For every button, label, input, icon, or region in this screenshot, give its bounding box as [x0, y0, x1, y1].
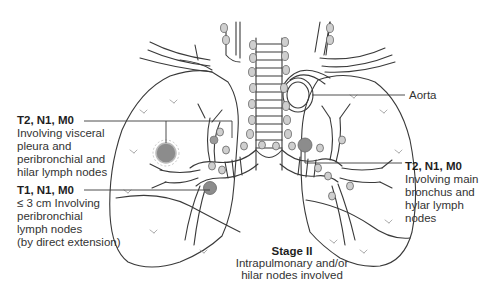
label-line: (by direct extension)	[17, 236, 121, 249]
label-line: pleura and	[17, 140, 107, 153]
leader-t2-right	[305, 152, 402, 163]
label-line: bronchus and	[405, 186, 479, 199]
label-title: T2, N1, M0	[405, 160, 479, 173]
tumor-t1	[204, 182, 217, 195]
label-t2-n1-m0-right: T2, N1, M0 Involving main bronchus and h…	[405, 160, 479, 225]
caption-title: Stage II	[232, 245, 352, 257]
tumor-visceral-pleura	[156, 143, 176, 163]
label-title: T2, N1, M0	[17, 114, 107, 127]
label-line: hilar lymph nodes	[17, 166, 107, 179]
label-line: nodes	[405, 212, 479, 225]
neck-vessels	[140, 22, 395, 72]
label-aorta: Aorta	[409, 89, 437, 102]
lymph-nodes	[209, 24, 354, 201]
right-lung-fissure	[306, 200, 410, 238]
tumor-main-bronchus	[298, 138, 312, 152]
left-lung-fissure	[116, 195, 240, 232]
label-line: ≤ 3 cm Involving	[17, 197, 121, 210]
label-line: Aorta	[409, 89, 437, 102]
label-t1-n1-m0: T1, N1, M0 ≤ 3 cm Involving peribronchia…	[17, 184, 121, 249]
label-line: peribronchial and	[17, 153, 107, 166]
label-title: T1, N1, M0	[17, 184, 121, 197]
stage-caption: Stage II Intrapulmonary and/or hilar nod…	[232, 245, 352, 281]
caption-line: Intrapulmonary and/or	[232, 257, 352, 269]
label-line: Involving main	[405, 173, 479, 186]
caption-line: hilar nodes involved	[232, 269, 352, 281]
label-line: Involving visceral	[17, 127, 107, 140]
bronchi	[150, 104, 392, 245]
label-line: hylar lymph	[405, 199, 479, 212]
label-line: lymph nodes	[17, 223, 121, 236]
label-line: peribronchial	[17, 210, 121, 223]
trachea	[256, 38, 282, 170]
lung-texture	[124, 95, 402, 253]
label-t2-n1-m0-left: T2, N1, M0 Involving visceral pleura and…	[17, 114, 107, 179]
